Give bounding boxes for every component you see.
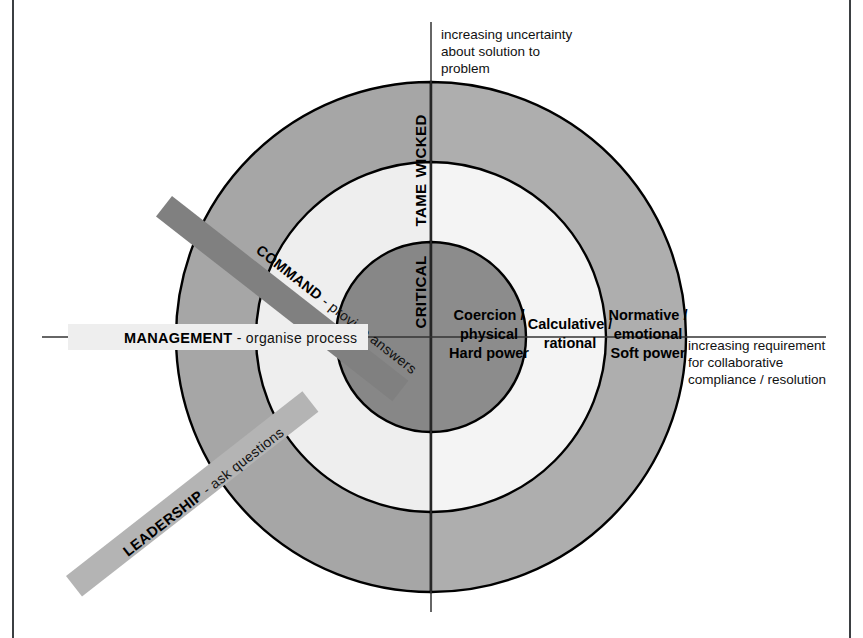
- power-calc-line1: Calculative /: [528, 316, 613, 332]
- power-soft-line2: emotional: [614, 326, 682, 342]
- concentric-rings-diagram: LEADERSHIP - ask questions COMMAND - pro…: [0, 0, 863, 638]
- ring-label-wicked: WICKED: [412, 114, 429, 177]
- horizontal-axis-note: increasing requirement for collaborative…: [688, 337, 826, 388]
- power-hard-line2: physical: [460, 326, 518, 342]
- ring-label-critical: CRITICAL: [412, 255, 429, 328]
- diagram-canvas: LEADERSHIP - ask questions COMMAND - pro…: [0, 0, 863, 638]
- power-hard-line3: Hard power: [449, 345, 529, 361]
- power-calc-line2: rational: [544, 335, 596, 351]
- vertical-axis-note: increasing uncertainty about solution to…: [441, 26, 572, 77]
- power-soft-line3: Soft power: [611, 345, 686, 361]
- banner-management[interactable]: MANAGEMENT - organise process: [68, 324, 368, 350]
- banner-management-label: MANAGEMENT - organise process: [124, 330, 357, 346]
- power-soft-line1: Normative /: [609, 307, 688, 323]
- power-hard-line1: Coercion /: [454, 307, 525, 323]
- power-label-hard: Coercion / physical Hard power: [449, 307, 529, 361]
- ring-label-tame: TAME: [412, 184, 429, 227]
- power-label-soft: Normative / emotional Soft power: [609, 307, 688, 361]
